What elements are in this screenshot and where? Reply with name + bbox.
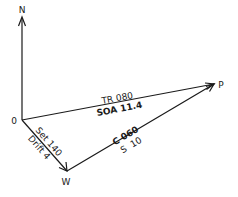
origin-label: 0 — [11, 116, 17, 126]
course-vector-line — [67, 84, 214, 171]
north-label: N — [19, 5, 26, 15]
destination-label: P — [218, 80, 224, 90]
vector-diagram: N 0 TR 080 SOA 11.4 P Set 140 Drift 4 W … — [0, 0, 238, 197]
current-end-label: W — [62, 177, 71, 187]
